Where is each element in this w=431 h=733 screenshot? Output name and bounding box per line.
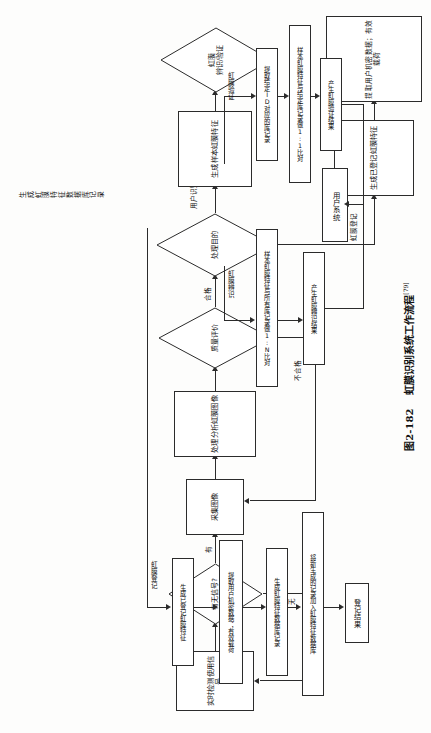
edge-label-iris-verification: 虹膜验证 bbox=[225, 72, 235, 100]
edge-purpose-enroll-right-2 bbox=[147, 607, 168, 608]
arrowhead-enroll-1-2 bbox=[213, 604, 218, 610]
node-verify-result: 产生虹膜验证结果 bbox=[320, 58, 342, 151]
node-identify-compare: 样本虹膜特征与所有库记录做1:N比对 bbox=[256, 229, 278, 387]
edge-enroll-2-3 bbox=[243, 607, 262, 608]
figure-page: 实时检测使用信号 有无信号? 有 无 采集图像 处理分析虹膜图像 bbox=[0, 0, 431, 733]
arrowhead-verifyresult-to-usersystem bbox=[344, 201, 349, 207]
figure-caption: 图2-182 虹膜识别系统工作流程[79] bbox=[391, 0, 425, 733]
figure-reference: [79] bbox=[402, 282, 409, 294]
edge-mode-to-verify-up bbox=[224, 96, 225, 164]
edge-verifyresult-right bbox=[342, 104, 364, 105]
edge-purpose-enroll-down-2 bbox=[147, 228, 148, 608]
edge-identifyresult-up bbox=[363, 204, 364, 309]
node-generate-enrolled-feature-2: 生成已登记虹膜特征 bbox=[172, 558, 194, 666]
arrowhead-verifyextract-to-verifycompare bbox=[284, 93, 289, 99]
edge-label-iris-identification: 虹膜辨识 bbox=[225, 270, 235, 298]
node-generate-db-record-2: 生成虹膜特征数据库记录 bbox=[266, 548, 288, 676]
flowchart-overlay: 提取给定ID对应的库记录 样本虹膜特征与给定库记录做1:1比对 产生虹膜验证结果… bbox=[0, 0, 431, 733]
edge-mode-to-identify-right bbox=[224, 320, 252, 321]
edge-label-iris-enrollment-2: 虹膜登记 bbox=[148, 561, 158, 589]
arrowhead-verifycompare-to-verifyresult bbox=[315, 93, 320, 99]
edge-identifycompare-to-identifyresult bbox=[278, 320, 300, 321]
node-enroll-result: 登记结果 bbox=[345, 583, 369, 643]
edge-enroll-1-2 bbox=[194, 607, 215, 608]
node-identify-result: 产生虹膜辨识结果 bbox=[303, 252, 325, 365]
edge-verifyresult-to-usersystem bbox=[348, 204, 364, 205]
arrowhead-mode-to-verify bbox=[251, 93, 256, 99]
node-extract-user-data-2: 提取用户机密数据；有效载荷 bbox=[219, 540, 243, 684]
arrowhead-enroll-4-5 bbox=[339, 604, 344, 610]
edge-identifyresult-right bbox=[325, 308, 363, 309]
figure-title: 虹膜识别系统工作流程 bbox=[404, 295, 415, 395]
arrowhead-enroll-2-3 bbox=[261, 604, 266, 610]
node-verify-extract-record: 提取给定ID对应的库记录 bbox=[256, 48, 278, 161]
arrowhead-identifycompare-to-identifyresult bbox=[298, 317, 303, 323]
arrowhead-mode-to-identify bbox=[250, 317, 255, 323]
arrowhead-enroll-start bbox=[166, 604, 171, 610]
figure-number: 图2-182 bbox=[404, 409, 415, 451]
edge-verifyresult-down bbox=[363, 104, 364, 204]
node-verify-compare: 样本虹膜特征与给定库记录做1:1比对 bbox=[289, 25, 311, 183]
arrowhead-enroll-3-4 bbox=[296, 604, 301, 610]
node-add-to-db: 将新生成的记录加入虹膜特征数据库 bbox=[302, 512, 324, 696]
